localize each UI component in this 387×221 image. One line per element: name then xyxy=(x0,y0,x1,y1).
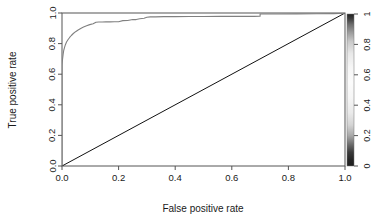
y-axis-title: True positive rate xyxy=(7,51,18,128)
y-tick-label: 0.6 xyxy=(47,68,58,81)
y-tick-label: 1.0 xyxy=(47,6,58,19)
x-tick-label: 0.6 xyxy=(225,172,238,183)
plot-canvas: 0.00.20.40.60.81.0 0.00.20.40.60.81.0 Fa… xyxy=(0,0,387,221)
colorbar-tick-label: 1 xyxy=(362,11,372,16)
x-tick-label: 0.0 xyxy=(55,172,68,183)
colorbar-tick-label: 0.8 xyxy=(362,38,372,51)
colorbar-tick-label: 0 xyxy=(362,163,372,168)
colorbar-tick-label: 0.6 xyxy=(362,69,372,82)
colorbar-ticks: 00.20.40.60.81 xyxy=(354,11,372,168)
x-axis-title: False positive rate xyxy=(162,203,244,214)
y-tick-label: 0.4 xyxy=(47,98,58,111)
cutoff-colorbar-strip xyxy=(347,14,354,166)
x-tick-label: 0.8 xyxy=(282,172,295,183)
colorbar-tick-label: 0.2 xyxy=(362,129,372,142)
x-tick-label: 0.2 xyxy=(112,172,125,183)
y-tick-label: 0.8 xyxy=(47,37,58,50)
y-axis-ticks: 0.00.20.40.60.81.0 xyxy=(47,6,63,172)
roc-plot-figure: 0.00.20.40.60.81.0 0.00.20.40.60.81.0 Fa… xyxy=(0,0,387,221)
colorbar-tick-label: 0.4 xyxy=(362,99,372,112)
y-tick-label: 0.2 xyxy=(47,129,58,142)
x-axis-ticks: 0.00.20.40.60.81.0 xyxy=(55,166,351,183)
x-tick-label: 0.4 xyxy=(169,172,182,183)
x-tick-label: 1.0 xyxy=(338,172,351,183)
y-tick-label: 0.0 xyxy=(47,159,58,172)
